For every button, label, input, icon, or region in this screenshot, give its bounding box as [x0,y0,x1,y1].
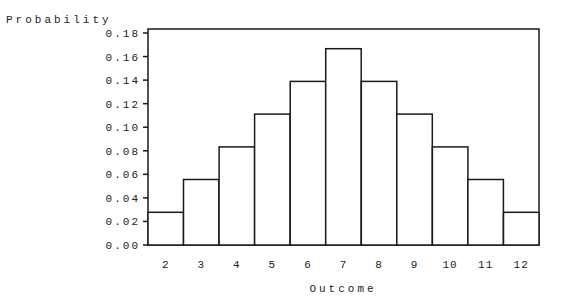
bar-5 [255,114,291,245]
bar-8 [361,81,397,245]
bar-4 [219,147,255,245]
y-tick-label: 0.06 [106,169,140,181]
y-tick-label: 0.12 [106,99,140,111]
bar-7 [326,49,362,245]
x-tick-label: 11 [478,259,493,271]
bar-2 [148,212,184,245]
bar-11 [468,180,504,246]
y-tick-label: 0.18 [106,28,140,40]
x-tick-label: 4 [233,259,241,271]
y-tick-label: 0.04 [106,193,140,205]
y-tick-label: 0.08 [106,146,140,158]
x-tick-label: 12 [514,259,529,271]
bar-10 [432,147,468,245]
x-tick-label: 10 [442,259,457,271]
x-tick-label: 5 [269,259,277,271]
y-tick-label: 0.02 [106,216,140,228]
y-tick-label: 0.16 [106,52,140,64]
x-tick-label: 6 [304,259,312,271]
x-tick-label: 2 [162,259,170,271]
x-tick-label: 3 [197,259,205,271]
x-axis-title: Outcome [309,283,376,295]
bar-9 [397,114,433,245]
y-axis: 0.000.020.040.060.080.100.120.140.160.18 [106,28,148,252]
bar-3 [184,180,220,246]
x-tick-label: 8 [375,259,383,271]
y-tick-label: 0.10 [106,122,140,134]
x-tick-label: 7 [340,259,348,271]
y-tick-label: 0.00 [106,240,140,252]
bar-12 [504,212,540,245]
y-axis-title: Probability [6,14,112,26]
x-tick-label: 9 [411,259,419,271]
probability-histogram: 0.000.020.040.060.080.100.120.140.160.18… [0,0,565,303]
y-tick-label: 0.14 [106,75,140,87]
bars-group [148,49,539,245]
x-axis: 23456789101112 [162,259,529,271]
bar-6 [290,81,326,245]
